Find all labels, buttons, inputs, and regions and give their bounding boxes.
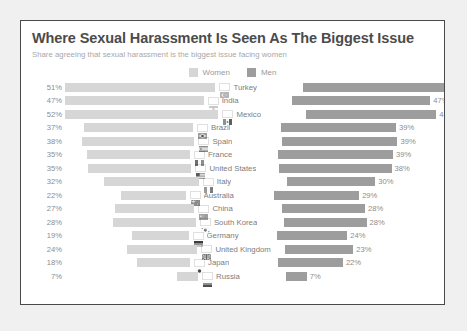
country-cell: United Kingdom <box>197 245 281 254</box>
women-bar-track <box>65 243 197 257</box>
women-bar-track <box>65 216 196 230</box>
chart-row: 24%United Kingdom23% <box>32 243 433 257</box>
men-bar-track: 24% <box>273 229 433 243</box>
men-bar[interactable] <box>282 137 397 146</box>
flag-united-states-icon <box>195 164 206 172</box>
flag-japan-icon <box>194 259 205 267</box>
women-bar-track <box>65 94 204 108</box>
men-bar[interactable] <box>286 272 307 281</box>
women-bar-track <box>65 229 189 243</box>
women-bar[interactable] <box>104 177 198 186</box>
women-bar-track <box>65 121 193 135</box>
chart-card: Where Sexual Harassment Is Seen As The B… <box>20 20 445 305</box>
women-bar[interactable] <box>115 204 195 213</box>
chart-row: 52%Mexico44% <box>32 108 433 122</box>
women-value-label: 19% <box>32 231 65 240</box>
men-bar[interactable] <box>282 204 365 213</box>
men-value-label: 28% <box>367 218 385 227</box>
women-bar[interactable] <box>65 83 215 92</box>
men-bar[interactable] <box>281 123 396 132</box>
women-bar-track <box>65 175 199 189</box>
flag-france-icon <box>194 151 205 159</box>
men-bar[interactable] <box>274 191 360 200</box>
men-bar-track: 47% <box>288 94 445 108</box>
chart-subtitle: Share agreeing that sexual harassment is… <box>32 50 433 59</box>
men-bar[interactable] <box>292 96 431 105</box>
women-bar-track <box>65 256 190 270</box>
country-cell: France <box>190 150 274 159</box>
men-bar[interactable] <box>284 218 367 227</box>
men-bar-track: 28% <box>278 202 433 216</box>
women-bar[interactable] <box>127 245 198 254</box>
women-value-label: 22% <box>32 191 65 200</box>
flag-india-icon <box>208 97 219 105</box>
chart-legend: WomenMen <box>32 68 433 77</box>
women-bar[interactable] <box>113 218 196 227</box>
women-value-label: 52% <box>32 110 65 119</box>
men-bar[interactable] <box>278 258 343 267</box>
men-bar[interactable] <box>303 83 445 92</box>
legend-label: Men <box>261 68 277 77</box>
women-bar[interactable] <box>65 110 218 119</box>
men-value-label: 44% <box>436 110 445 119</box>
flag-china-icon <box>198 205 209 213</box>
men-bar[interactable] <box>285 245 353 254</box>
men-bar-track: 39% <box>274 148 433 162</box>
country-cell: South Korea <box>196 218 280 227</box>
men-bar[interactable] <box>287 177 376 186</box>
page-background: Where Sexual Harassment Is Seen As The B… <box>0 0 467 331</box>
men-bar-track: 28% <box>280 216 433 230</box>
country-cell: China <box>194 204 278 213</box>
women-bar[interactable] <box>82 137 194 146</box>
women-bar[interactable] <box>137 258 190 267</box>
chart-row: 28%South Korea28% <box>32 216 433 230</box>
country-cell: Russia <box>198 272 282 281</box>
flag-south-korea-icon <box>200 218 211 226</box>
women-value-label: 38% <box>32 137 65 146</box>
men-bar[interactable] <box>306 110 436 119</box>
flag-united-kingdom-icon <box>201 245 212 253</box>
country-cell: Italy <box>199 177 283 186</box>
chart-row: 22%Australia29% <box>32 189 433 203</box>
legend-swatch-men <box>247 68 256 77</box>
men-bar-track: 39% <box>277 121 433 135</box>
men-bar-track: 38% <box>275 162 433 176</box>
women-bar[interactable] <box>88 164 191 173</box>
men-bar[interactable] <box>279 164 391 173</box>
women-bar[interactable] <box>121 191 186 200</box>
men-value-label: 47% <box>430 96 445 105</box>
chart-row: 37%Brazil39% <box>32 121 433 135</box>
country-cell: Turkey <box>215 83 299 92</box>
men-value-label: 24% <box>347 231 365 240</box>
flag-italy-icon <box>203 178 214 186</box>
men-bar[interactable] <box>277 231 348 240</box>
country-cell: Spain <box>194 137 278 146</box>
women-bar[interactable] <box>65 96 204 105</box>
men-bar[interactable] <box>278 150 393 159</box>
men-bar-track: 23% <box>281 243 433 257</box>
country-label: Turkey <box>233 83 257 92</box>
men-value-label: 7% <box>307 272 321 281</box>
country-label: France <box>208 150 232 159</box>
country-cell: Japan <box>190 258 274 267</box>
women-bar[interactable] <box>87 150 190 159</box>
women-bar[interactable] <box>177 272 198 281</box>
men-value-label: 38% <box>392 164 410 173</box>
legend-item[interactable]: Men <box>247 68 277 77</box>
men-value-label: 23% <box>353 245 371 254</box>
men-bar-track: 30% <box>283 175 433 189</box>
flag-australia-icon <box>190 191 201 199</box>
chart-row: 18%Japan22% <box>32 256 433 270</box>
country-cell: Germany <box>189 231 273 240</box>
chart-row: 7%Russia7% <box>32 270 433 284</box>
men-value-label: 39% <box>397 137 415 146</box>
men-bar-track: 39% <box>278 135 433 149</box>
legend-item[interactable]: Women <box>189 68 230 77</box>
women-bar[interactable] <box>132 231 188 240</box>
country-label: Germany <box>207 231 239 240</box>
chart-row: 47%India47% <box>32 94 433 108</box>
women-bar-track <box>65 81 215 95</box>
chart-rows: 51%Turkey50%47%India47%52%Mexico44%37%Br… <box>32 81 433 284</box>
women-bar-track <box>65 189 186 203</box>
women-bar[interactable] <box>84 123 193 132</box>
